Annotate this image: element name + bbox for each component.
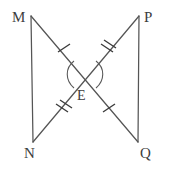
vertex-label-N: N (24, 146, 35, 161)
geometry-figure: M P N Q E (0, 0, 170, 171)
segment-PN (33, 16, 139, 142)
vertex-label-P: P (144, 10, 152, 25)
segment-MQ (31, 16, 138, 142)
vertex-label-M: M (12, 10, 25, 25)
segment-MN (31, 16, 33, 142)
tick-mark-ME-1 (58, 44, 70, 52)
tick-mark-EQ-1 (103, 104, 115, 112)
vertex-label-E: E (77, 89, 86, 103)
segment-PQ (138, 16, 139, 142)
vertex-label-Q: Q (140, 146, 151, 161)
tick-mark-EN-1 (56, 104, 68, 112)
